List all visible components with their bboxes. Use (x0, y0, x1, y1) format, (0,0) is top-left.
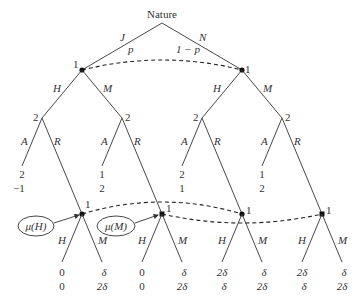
action-H-label: H (52, 82, 62, 94)
edge-N-M (242, 70, 282, 118)
payoff-p1: δ (181, 266, 187, 278)
action-R-label: R (293, 135, 301, 147)
payoff-p1: δ (101, 266, 107, 278)
action-N-label: N (198, 31, 207, 43)
info-set-p1-top (82, 60, 242, 70)
action-M-label: M (102, 82, 113, 94)
nature-label: Nature (147, 8, 177, 20)
action-M-label: M (257, 234, 268, 246)
payoff-p2: 2 (259, 182, 265, 194)
edge-R (42, 118, 82, 214)
payoff-p1: 2 (19, 168, 25, 180)
action-A-label: A (260, 135, 268, 147)
payoff-p1: δ (261, 266, 267, 278)
edge-R (202, 118, 242, 214)
action-M-label: M (262, 82, 273, 94)
payoff-p2: 2δ (337, 280, 349, 292)
action-M-label: M (97, 234, 108, 246)
action-H-label: H (212, 82, 222, 94)
belief-M-label: μ(M) (104, 220, 127, 233)
payoff-p1: 0 (139, 266, 145, 278)
payoff-p2: −1 (13, 182, 25, 194)
player-2-label: 2 (285, 111, 291, 123)
game-tree: Nature J p N 1 − p 1 1 H M H M 2 2 2 2 A… (0, 0, 360, 306)
action-H-label: H (137, 234, 147, 246)
action-M-label: M (337, 234, 348, 246)
payoff-p2: 2 (99, 182, 105, 194)
action-M-label: M (177, 234, 188, 246)
prob-1-minus-p-label: 1 − p (176, 43, 200, 55)
action-R-label: R (133, 135, 141, 147)
player-1-label: 1 (73, 58, 79, 70)
payoff-p2: 2δ (97, 280, 109, 292)
payoff-p1: 2δ (217, 266, 229, 278)
action-R-label: R (53, 135, 61, 147)
player-1-label: 1 (246, 204, 252, 216)
payoff-p1: δ (341, 266, 347, 278)
action-R-label: R (213, 135, 221, 147)
action-H-label: H (297, 234, 307, 246)
payoff-p2: δ (301, 280, 307, 292)
action-A-label: A (20, 135, 28, 147)
payoff-p1: 2δ (297, 266, 309, 278)
player-2-label: 2 (33, 111, 39, 123)
edge-J-H (42, 70, 82, 118)
payoff-p2: 1 (179, 182, 185, 194)
player-1-label: 1 (166, 202, 172, 214)
payoff-p2: 2δ (257, 280, 269, 292)
action-A-label: A (180, 135, 188, 147)
edge-R (282, 118, 322, 214)
payoff-p2: 2δ (177, 280, 189, 292)
action-H-label: H (57, 234, 67, 246)
payoff-p1: 1 (259, 168, 265, 180)
payoff-p1: 0 (59, 266, 65, 278)
belief-H-arrow (54, 215, 79, 223)
payoff-p2: 0 (59, 280, 65, 292)
action-J-label: J (120, 31, 126, 43)
player-1-label: 1 (326, 204, 332, 216)
player-2-label: 2 (125, 111, 131, 123)
edge-R (122, 118, 162, 214)
player-1-label: 1 (85, 198, 91, 210)
player-1-label: 1 (245, 63, 251, 75)
edge-J-M (82, 70, 122, 118)
action-A-label: A (100, 135, 108, 147)
belief-H-label: μ(H) (25, 220, 47, 233)
edge-N-H (202, 70, 242, 118)
payoff-p2: 0 (139, 280, 145, 292)
prob-p-label: p (127, 43, 134, 55)
belief-M-arrow (135, 215, 158, 223)
payoff-p1: 2 (179, 168, 185, 180)
player-2-label: 2 (193, 111, 199, 123)
payoff-p1: 1 (99, 168, 105, 180)
payoff-p2: δ (221, 280, 227, 292)
action-H-label: H (217, 234, 227, 246)
